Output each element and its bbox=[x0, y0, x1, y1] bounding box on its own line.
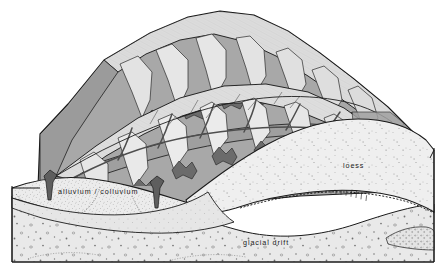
label-alluvium-colluvium: alluvium / colluvium bbox=[58, 187, 138, 196]
label-glacial-drift: glacial drift bbox=[243, 238, 289, 247]
label-loess: loess bbox=[343, 161, 364, 170]
geologic-block-diagram-figure: alluvium / colluvium loess glacial drift bbox=[0, 0, 446, 274]
block-diagram-canvas: alluvium / colluvium loess glacial drift bbox=[0, 0, 446, 274]
